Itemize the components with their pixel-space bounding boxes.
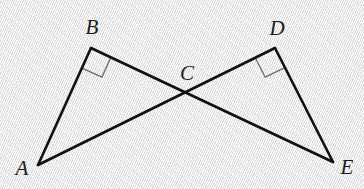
segment-BE	[91, 48, 333, 162]
geometry-canvas	[0, 0, 364, 189]
vertex-label-E: E	[341, 157, 354, 178]
geometry-figure: A B C D E	[0, 0, 364, 189]
vertex-label-B: B	[86, 17, 99, 38]
segment-AB	[38, 48, 91, 165]
vertex-label-D: D	[269, 18, 284, 39]
segment-DE	[275, 48, 333, 162]
segment-AD	[38, 48, 275, 165]
vertex-label-C: C	[180, 63, 194, 84]
vertex-label-A: A	[16, 158, 29, 179]
